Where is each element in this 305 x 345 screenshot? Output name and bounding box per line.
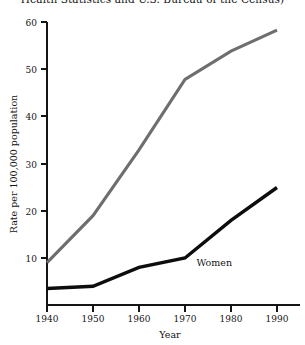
x-tick-label-1990: 1990 [266,314,289,324]
x-tick-label-1960: 1960 [128,314,151,324]
x-tick-label-1950: 1950 [82,314,105,324]
series-label-women: Women [197,257,233,268]
x-tick-label-1970: 1970 [174,314,197,324]
y-tick-label-50: 50 [26,65,38,75]
x-axis-title: Year [158,329,181,340]
y-tick-label-40: 40 [26,112,38,122]
x-tick-label-1980: 1980 [220,314,243,324]
series-line-men [47,30,277,263]
x-axis-tick-labels: 1940 1950 1960 1970 1980 1990 [36,314,289,324]
y-axis-title: Rate per 100,000 population [8,95,19,233]
y-tick-label-20: 20 [26,207,38,217]
line-chart: 60 50 40 30 20 10 Rate per 100,000 popul… [0,0,305,345]
x-axis-ticks [47,305,277,312]
x-tick-label-1940: 1940 [36,314,59,324]
y-tick-label-10: 10 [26,254,38,264]
y-axis-tick-labels: 60 50 40 30 20 10 [26,18,38,264]
series-line-women [47,188,277,289]
y-axis-ticks [41,22,47,258]
figure-container: Health Statistics and U.S. Bureau of the… [0,0,305,345]
y-tick-label-60: 60 [26,18,38,28]
y-tick-label-30: 30 [26,160,38,170]
